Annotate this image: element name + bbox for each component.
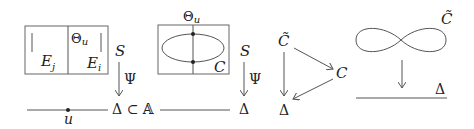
intersection-point-top — [191, 32, 195, 36]
label-psi: Ψ — [124, 71, 136, 87]
panel-2: Θu C S Ψ Δ — [158, 9, 261, 117]
label-s: S — [115, 42, 125, 60]
arrow-curve-to-base — [293, 79, 333, 99]
label-delta-4: Δ — [435, 81, 445, 97]
panel-4: C̃ Δ — [356, 10, 453, 98]
arrow-cover-to-curve — [294, 48, 333, 69]
label-ej: Ej — [40, 52, 55, 72]
label-theta-u: Θu — [71, 31, 88, 47]
label-ei: Ei — [86, 54, 101, 73]
label-s-2: S — [240, 42, 250, 60]
label-c-tilde: C̃ — [278, 32, 290, 50]
panel-1: Ej Ei Θu S Ψ u Δ ⊂ 𝔸 — [25, 26, 155, 127]
label-u: u — [64, 111, 73, 127]
label-delta-subset-a: Δ ⊂ 𝔸 — [112, 101, 155, 117]
label-theta-u-2: Θu — [183, 9, 200, 25]
label-c: C — [214, 58, 226, 76]
label-c-tilde-4: C̃ — [441, 10, 453, 28]
figure-eight-curve — [356, 28, 446, 51]
label-delta-2: Δ — [239, 101, 249, 117]
diagram: Ej Ei Θu S Ψ u Δ ⊂ 𝔸 Θu C S Ψ Δ C̃ C Δ — [0, 0, 474, 129]
label-c-3: C — [336, 64, 348, 82]
panel-3: C̃ C Δ — [278, 32, 348, 118]
label-delta-3: Δ — [279, 102, 289, 118]
intersection-point-bottom — [191, 60, 195, 64]
label-psi-2: Ψ — [249, 71, 261, 87]
